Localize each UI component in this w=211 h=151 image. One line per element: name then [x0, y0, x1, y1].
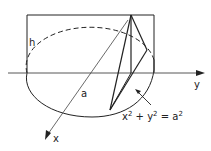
wedge-edge-front	[110, 15, 131, 110]
base-ellipse-hidden	[26, 27, 154, 73]
wedge-inner-chord	[110, 73, 131, 110]
svg-text:x2 + y2 = a2: x2 + y2 = a2	[122, 110, 183, 122]
y-axis-arrow-icon	[196, 70, 205, 76]
y-axis-label: y	[194, 79, 200, 90]
x-axis-label: x	[53, 133, 59, 144]
equation-pointer-arrow-icon	[135, 89, 141, 94]
cylinder-wedge-diagram: h a y x x2 + y2 = a2	[0, 0, 211, 151]
radius-label: a	[81, 88, 87, 99]
height-label: h	[29, 37, 35, 48]
circle-equation: x2 + y2 = a2	[122, 110, 183, 122]
wedge-edge-right	[131, 15, 147, 50]
